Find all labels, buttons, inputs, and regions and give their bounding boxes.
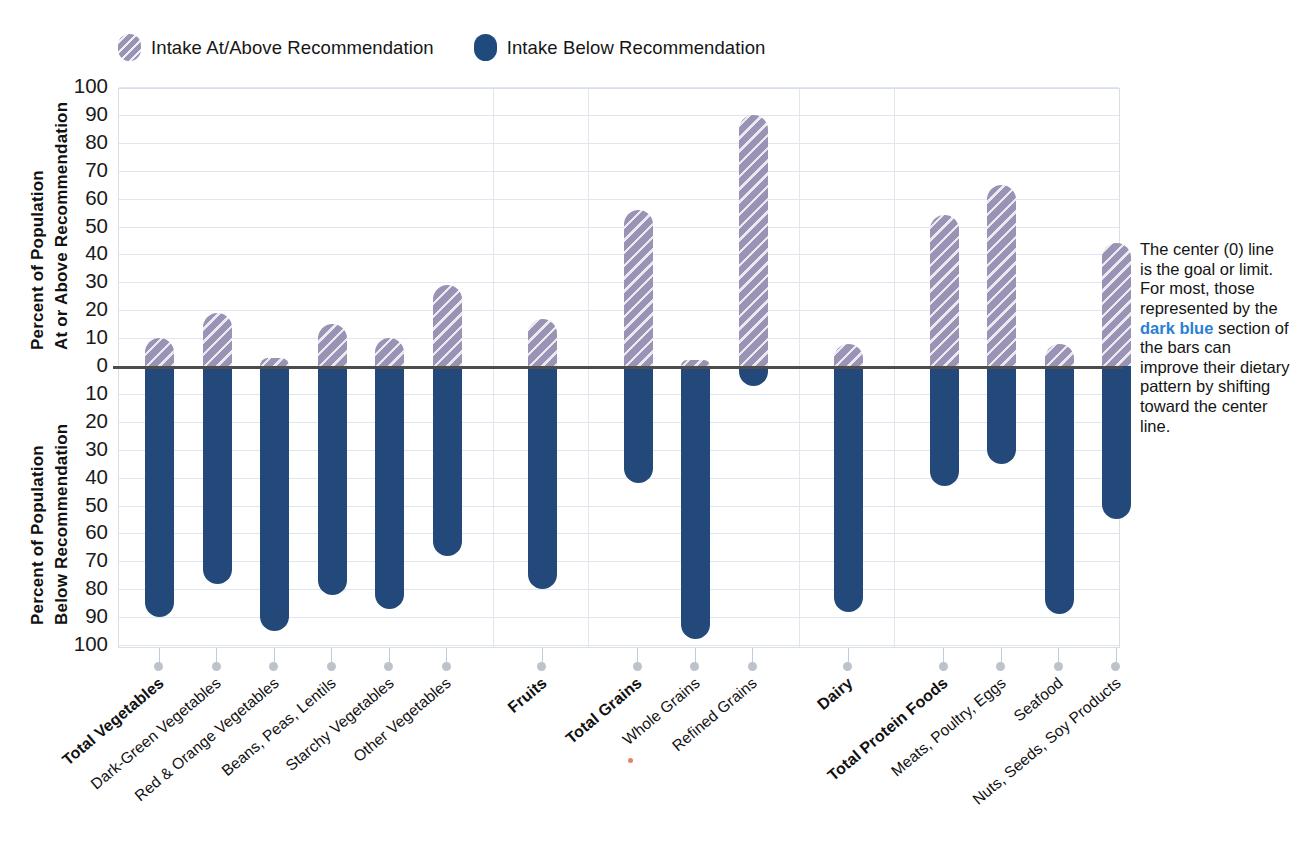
- legend-swatch-above-icon: [118, 34, 141, 61]
- bar-whole-grains[interactable]: [681, 89, 710, 649]
- y-tick-90-above: 90: [85, 102, 108, 126]
- x-label-dairy: Dairy: [813, 674, 856, 714]
- tick-dot: [939, 662, 948, 671]
- bar-segment-above: [260, 358, 289, 366]
- bar-fruits[interactable]: [528, 89, 557, 649]
- bar-total-grains[interactable]: [624, 89, 653, 649]
- bar-segment-above: [318, 324, 347, 366]
- bar-dairy[interactable]: [834, 89, 863, 649]
- y-tick-30-above: 30: [85, 269, 108, 293]
- chart-plot-area: [118, 88, 1120, 648]
- bar-seafood[interactable]: [1045, 89, 1074, 649]
- bar-total-vegetables[interactable]: [145, 89, 174, 649]
- bar-segment-below: [375, 366, 404, 609]
- bar-segment-below: [260, 366, 289, 631]
- bar-segment-above: [375, 338, 404, 366]
- side-note-highlight: dark blue: [1140, 319, 1213, 337]
- bar-segment-above: [433, 285, 462, 366]
- y-tick-10-below: 10: [85, 381, 108, 405]
- legend-item-above: Intake At/Above Recommendation: [118, 34, 434, 61]
- y-tick-70-below: 70: [85, 548, 108, 572]
- bar-segment-below: [987, 366, 1016, 464]
- y-tick-100-above: 100: [74, 74, 108, 98]
- bar-segment-below: [433, 366, 462, 556]
- y-tick-10-above: 10: [85, 325, 108, 349]
- bar-dark-green-vegetables[interactable]: [203, 89, 232, 649]
- x-label-seafood: Seafood: [1010, 674, 1066, 725]
- legend-label-below: Intake Below Recommendation: [507, 37, 766, 59]
- x-label-fruits: Fruits: [504, 674, 550, 717]
- tick-dot: [212, 662, 221, 671]
- y-tick-50-below: 50: [85, 493, 108, 517]
- bar-segment-below: [834, 366, 863, 612]
- bar-segment-below: [1102, 366, 1131, 519]
- tick-dot: [537, 662, 546, 671]
- bar-segment-below: [624, 366, 653, 483]
- bar-segment-below: [1045, 366, 1074, 614]
- y-tick-40-below: 40: [85, 465, 108, 489]
- bar-segment-above: [203, 313, 232, 366]
- x-label-starchy-vegetables: Starchy Vegetables: [282, 674, 397, 775]
- tick-dot: [1111, 662, 1120, 671]
- bar-starchy-vegetables[interactable]: [375, 89, 404, 649]
- bar-beans-peas-lentils[interactable]: [318, 89, 347, 649]
- bar-segment-above: [145, 338, 174, 366]
- tick-dot: [1054, 662, 1063, 671]
- bar-segment-above: [834, 344, 863, 366]
- bar-refined-grains[interactable]: [739, 89, 768, 649]
- tick-dot: [843, 662, 852, 671]
- tick-dot: [633, 662, 642, 671]
- tick-dot: [327, 662, 336, 671]
- y-tick-40-above: 40: [85, 241, 108, 265]
- legend-label-above: Intake At/Above Recommendation: [151, 37, 434, 59]
- chart-legend: Intake At/Above Recommendation Intake Be…: [118, 34, 766, 61]
- bar-segment-above: [739, 115, 768, 366]
- y-tick-0-above: 0: [97, 353, 108, 377]
- x-label-other-vegetables: Other Vegetables: [350, 674, 455, 766]
- bar-meats-poultry-eggs[interactable]: [987, 89, 1016, 649]
- side-note-before: The center (0) line is the goal or limit…: [1140, 240, 1278, 317]
- bar-segment-below: [930, 366, 959, 486]
- bar-segment-below: [145, 366, 174, 617]
- side-note: The center (0) line is the goal or limit…: [1140, 240, 1290, 436]
- y-tick-100-below: 100: [74, 632, 108, 656]
- y-axis-tick-labels: 1009080706050403020100102030405060708090…: [0, 88, 118, 648]
- bar-nuts-seeds-soy-products[interactable]: [1102, 89, 1131, 649]
- bar-segment-below: [528, 366, 557, 589]
- tick-dot: [996, 662, 1005, 671]
- x-label-total-vegetables: Total Vegetables: [58, 674, 167, 769]
- y-tick-20-above: 20: [85, 297, 108, 321]
- y-tick-70-above: 70: [85, 158, 108, 182]
- tick-dot: [748, 662, 757, 671]
- tick-dot: [384, 662, 393, 671]
- tick-dot: [269, 662, 278, 671]
- zero-baseline: [113, 366, 1123, 369]
- y-tick-30-below: 30: [85, 437, 108, 461]
- bar-segment-above: [1045, 344, 1074, 366]
- tick-dot: [690, 662, 699, 671]
- gridline-h: [119, 87, 1119, 88]
- bar-segment-above: [987, 185, 1016, 366]
- bar-segment-above: [1102, 243, 1131, 366]
- bar-segment-above: [930, 215, 959, 366]
- bar-total-protein-foods[interactable]: [930, 89, 959, 649]
- y-tick-50-above: 50: [85, 214, 108, 238]
- bar-segment-below: [318, 366, 347, 595]
- y-tick-80-above: 80: [85, 130, 108, 154]
- legend-swatch-below-icon: [474, 34, 497, 61]
- bar-segment-above: [624, 210, 653, 366]
- bar-red-orange-vegetables[interactable]: [260, 89, 289, 649]
- tick-dot: [154, 662, 163, 671]
- legend-item-below: Intake Below Recommendation: [474, 34, 766, 61]
- tick-dot: [442, 662, 451, 671]
- bar-other-vegetables[interactable]: [433, 89, 462, 649]
- y-tick-20-below: 20: [85, 409, 108, 433]
- bar-segment-below: [681, 366, 710, 639]
- y-tick-60-below: 60: [85, 520, 108, 544]
- y-tick-80-below: 80: [85, 576, 108, 600]
- bar-segment-above: [528, 319, 557, 366]
- bar-segment-below: [203, 366, 232, 584]
- y-tick-90-below: 90: [85, 604, 108, 628]
- y-tick-60-above: 60: [85, 186, 108, 210]
- refined-grains-marker-icon: [628, 758, 633, 763]
